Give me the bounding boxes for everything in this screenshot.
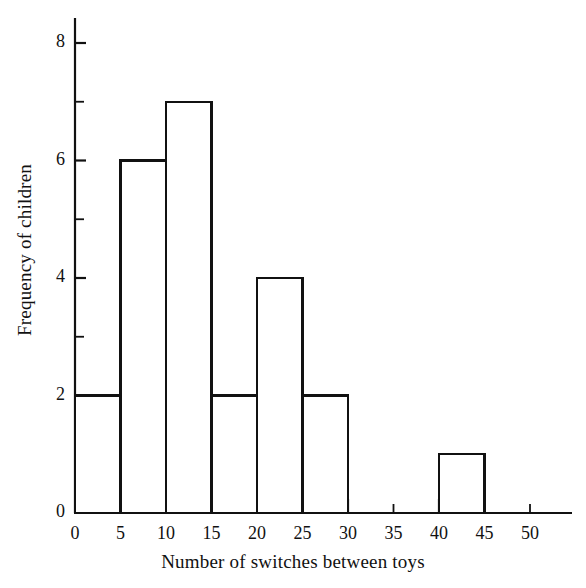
histogram-bar <box>121 161 167 514</box>
x-tick-label: 40 <box>419 523 459 544</box>
histogram-bar <box>257 278 303 513</box>
histogram-bar <box>303 396 349 514</box>
y-tick-label: 6 <box>31 149 65 170</box>
plot-area <box>0 0 586 588</box>
y-axis-title: Frequency of children <box>14 80 40 420</box>
x-tick-label: 50 <box>510 523 550 544</box>
x-tick-label: 30 <box>328 523 368 544</box>
x-tick-label: 0 <box>55 523 95 544</box>
y-tick-label: 0 <box>31 501 65 522</box>
histogram-bar <box>439 454 485 513</box>
x-tick-label: 10 <box>146 523 186 544</box>
x-tick-label: 20 <box>237 523 277 544</box>
y-tick-label: 8 <box>31 31 65 52</box>
y-tick-label: 2 <box>31 384 65 405</box>
histogram-bar <box>166 102 212 513</box>
x-tick-label: 35 <box>374 523 414 544</box>
x-tick-label: 45 <box>465 523 505 544</box>
x-tick-label: 15 <box>192 523 232 544</box>
histogram-chart: Number of switches between toys Frequenc… <box>0 0 586 588</box>
histogram-bar <box>212 396 258 514</box>
histogram-bar <box>75 396 121 514</box>
x-tick-label: 5 <box>101 523 141 544</box>
x-tick-label: 25 <box>283 523 323 544</box>
y-tick-label: 4 <box>31 266 65 287</box>
x-axis-title: Number of switches between toys <box>0 551 586 573</box>
